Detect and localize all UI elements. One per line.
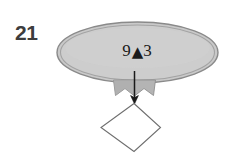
ellipse-node-label: 9▲3 [57,42,218,60]
diamond-node [101,104,161,152]
triangle-icon: ▲ [132,43,144,61]
figure-number-label: 21 [15,22,37,43]
ellipse-node-label-left: 9 [122,41,132,60]
figure-container: 21 9▲3 [0,0,231,160]
ellipse-node-label-right: 3 [143,41,153,60]
